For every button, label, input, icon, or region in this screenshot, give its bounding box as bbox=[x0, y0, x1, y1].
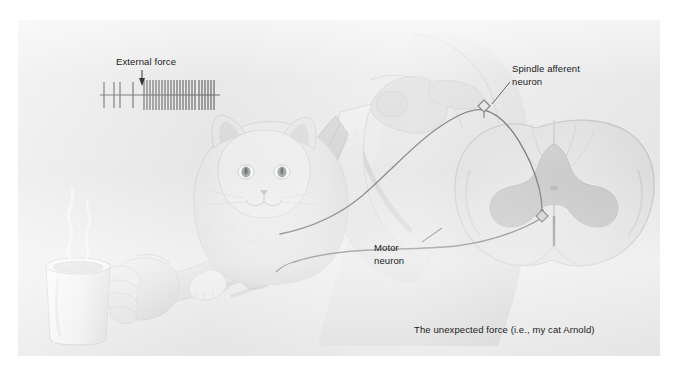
caption-block: The unexpected force (i.e., my cat Arnol… bbox=[414, 296, 595, 356]
cat-arnold bbox=[190, 115, 348, 301]
hand-gripping-mug bbox=[107, 254, 179, 323]
label-spindle-afferent-neuron: Spindle afferent neuron bbox=[512, 63, 580, 88]
caption-line-1: The unexpected force (i.e., my cat Arnol… bbox=[414, 323, 595, 337]
steam bbox=[68, 190, 90, 260]
label-external-force: External force bbox=[116, 56, 176, 69]
illustration-panel: External force Spindle afferent neuron M… bbox=[18, 20, 660, 356]
spike-train-recording bbox=[100, 70, 220, 110]
label-motor-neuron: Motor neuron bbox=[374, 242, 404, 267]
stretch-reflex-figure: External force Spindle afferent neuron M… bbox=[0, 0, 684, 382]
coffee-mug bbox=[46, 258, 110, 345]
spinal-cord-cross-section bbox=[455, 120, 654, 266]
